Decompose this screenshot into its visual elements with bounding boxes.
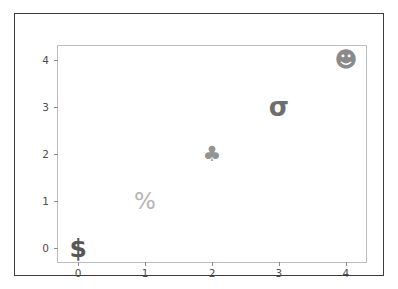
y-tick-label: 3 — [42, 102, 49, 113]
x-tick-label: 2 — [209, 268, 216, 279]
x-tick-mark — [145, 262, 146, 266]
y-tick-mark — [54, 154, 58, 155]
y-tick-label: 4 — [42, 55, 49, 66]
x-tick-mark — [279, 262, 280, 266]
x-tick-label: 3 — [276, 268, 283, 279]
y-tick-label: 2 — [42, 149, 49, 160]
x-tick-mark — [78, 262, 79, 266]
y-tick-mark — [54, 201, 58, 202]
y-tick-mark — [54, 107, 58, 108]
x-tick-mark — [212, 262, 213, 266]
dollar-sign-marker: $ — [69, 235, 86, 260]
x-tick-mark — [346, 262, 347, 266]
x-tick-label: 0 — [75, 268, 82, 279]
x-tick-label: 1 — [142, 268, 149, 279]
sigma-marker: σ — [269, 94, 289, 120]
club-suit-marker: ♣ — [203, 144, 222, 165]
smiley-face-marker: ☻ — [334, 49, 357, 71]
y-tick-mark — [54, 248, 58, 249]
y-tick-label: 0 — [42, 243, 49, 254]
plot-axes: $%♣σ☻ 01234 01234 — [57, 45, 367, 263]
x-tick-label: 4 — [343, 268, 350, 279]
y-tick-label: 1 — [42, 196, 49, 207]
y-tick-mark — [54, 60, 58, 61]
figure: $%♣σ☻ 01234 01234 — [0, 0, 398, 289]
figure-frame: $%♣σ☻ 01234 01234 — [14, 13, 384, 276]
data-layer: $%♣σ☻ — [58, 46, 366, 262]
percent-sign-marker: % — [134, 189, 156, 212]
